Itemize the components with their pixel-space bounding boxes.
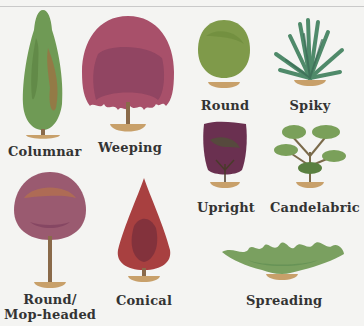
label-columnar: Columnar — [8, 144, 78, 159]
spreading-tree-illustration — [218, 236, 348, 284]
columnar-tree-illustration — [18, 8, 68, 140]
label-spreading: Spreading — [246, 293, 322, 308]
label-round: Round — [196, 98, 254, 113]
round-mop-headed-tree-illustration — [10, 168, 90, 292]
round-tree-illustration — [196, 16, 252, 92]
label-round-mop-headed: Round/ Mop-headed — [4, 292, 96, 322]
label-weeping: Weeping — [98, 140, 160, 155]
spiky-plant-illustration — [272, 14, 348, 92]
label-round-mop-headed-line2: Mop-headed — [4, 307, 96, 322]
upright-tree-illustration — [200, 120, 250, 190]
label-conical: Conical — [114, 293, 174, 308]
label-spiky: Spiky — [278, 98, 342, 113]
conical-tree-illustration — [114, 176, 174, 286]
label-candelabric: Candelabric — [270, 200, 354, 215]
label-upright: Upright — [194, 200, 258, 215]
label-round-mop-headed-line1: Round/ — [4, 292, 96, 307]
candelabric-tree-illustration — [272, 122, 348, 192]
top-divider — [0, 6, 364, 7]
weeping-tree-illustration — [78, 14, 178, 136]
